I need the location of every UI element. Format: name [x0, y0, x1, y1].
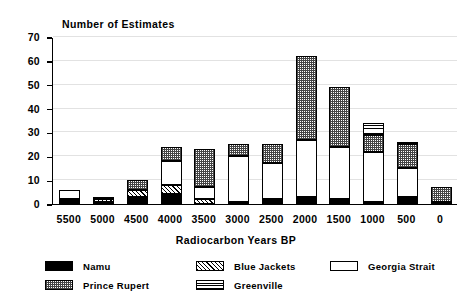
bar-segment-namu	[59, 199, 80, 204]
y-axis-label: 40	[6, 103, 40, 115]
bar-segment-prince-rupert	[93, 197, 114, 199]
y-axis-label: 20	[6, 150, 40, 162]
bar-segment-namu	[397, 199, 418, 204]
bar-segment-georgia-strait	[363, 152, 384, 202]
bar-segment-blue-jackets	[397, 197, 418, 199]
bar-segment-blue-jackets	[127, 190, 148, 197]
bar-segment-namu	[161, 194, 182, 204]
bar-2500[interactable]	[262, 144, 283, 204]
gridline	[53, 60, 457, 61]
bar-5000[interactable]	[93, 197, 114, 204]
y-axis-label: 60	[6, 55, 40, 67]
y-axis-label: 0	[6, 198, 40, 210]
x-axis-title: Radiocarbon Years BP	[0, 234, 472, 246]
bar-segment-blue-jackets	[194, 199, 215, 204]
bar-segment-georgia-strait	[228, 156, 249, 201]
bar-segment-greenville	[363, 123, 384, 135]
bar-500[interactable]	[397, 142, 418, 204]
y-axis-label: 30	[6, 126, 40, 138]
bar-segment-namu	[127, 197, 148, 204]
bar-segment-prince-rupert	[363, 135, 384, 152]
bar-segment-namu	[363, 202, 384, 204]
legend-label: Blue Jackets	[234, 259, 296, 274]
legend-label: Namu	[83, 259, 111, 274]
y-axis-label: 70	[6, 31, 40, 43]
bar-5500[interactable]	[59, 190, 80, 204]
bar-segment-georgia-strait	[296, 140, 317, 197]
bar-segment-namu	[262, 199, 283, 204]
legend-swatch-horizontal-lines	[196, 280, 224, 290]
bar-segment-georgia-strait	[262, 163, 283, 199]
bar-segment-prince-rupert	[431, 187, 452, 201]
legend-swatch-dark-crosshatch	[45, 280, 73, 290]
bar-0[interactable]	[431, 187, 452, 204]
bar-segment-greenville	[397, 142, 418, 144]
bar-segment-prince-rupert	[329, 87, 350, 147]
bar-segment-namu	[329, 199, 350, 204]
gridline	[53, 36, 457, 37]
plot-area	[52, 38, 457, 205]
bar-segment-georgia-strait	[397, 168, 418, 197]
bar-segment-prince-rupert	[296, 56, 317, 140]
gridline	[53, 84, 457, 85]
bar-segment-prince-rupert	[397, 144, 418, 168]
bar-segment-georgia-strait	[194, 187, 215, 199]
bar-2000[interactable]	[296, 56, 317, 204]
legend-swatch-diagonal-hatch	[196, 261, 224, 271]
bar-segment-prince-rupert	[127, 180, 148, 190]
bar-4500[interactable]	[127, 180, 148, 204]
bar-segment-prince-rupert	[194, 149, 215, 187]
bar-4000[interactable]	[161, 147, 182, 204]
bar-segment-georgia-strait	[161, 161, 182, 185]
legend-swatch-solid-black	[45, 261, 73, 271]
gridline	[53, 131, 457, 132]
chart-title: Number of Estimates	[62, 18, 175, 30]
bar-segment-georgia-strait	[59, 190, 80, 200]
bar-3000[interactable]	[228, 144, 249, 204]
y-axis-label: 10	[6, 174, 40, 186]
bar-segment-prince-rupert	[262, 144, 283, 163]
bar-segment-namu	[296, 199, 317, 204]
bar-segment-prince-rupert	[228, 144, 249, 156]
bar-segment-blue-jackets	[93, 199, 114, 201]
y-axis-label: 50	[6, 79, 40, 91]
bar-segment-blue-jackets	[161, 185, 182, 195]
bar-segment-namu	[93, 202, 114, 204]
legend-label: Prince Rupert	[83, 278, 149, 293]
legend-swatch-white-empty	[330, 261, 358, 271]
bar-segment-namu	[431, 202, 452, 204]
bar-segment-georgia-strait	[329, 147, 350, 199]
chart-page: Number of Estimates 010203040506070 5500…	[0, 0, 472, 306]
gridline	[53, 108, 457, 109]
legend-label: Georgia Strait	[368, 259, 435, 274]
legend-label: Greenville	[234, 278, 283, 293]
x-axis-label-0: 0	[415, 213, 465, 225]
bar-3500[interactable]	[194, 149, 215, 204]
bar-segment-namu	[228, 202, 249, 204]
chart-legend: NamuBlue JacketsGeorgia StraitPrince Rup…	[0, 259, 472, 299]
y-axis: 010203040506070	[0, 38, 52, 205]
bar-segment-blue-jackets	[296, 197, 317, 199]
bar-segment-prince-rupert	[161, 147, 182, 161]
bar-1000[interactable]	[363, 123, 384, 204]
bar-1500[interactable]	[329, 87, 350, 204]
